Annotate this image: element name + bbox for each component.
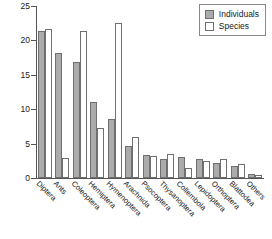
bar xyxy=(238,164,245,178)
bar xyxy=(132,137,139,178)
bar-group xyxy=(124,6,142,178)
bar xyxy=(150,156,157,178)
bar-group xyxy=(176,6,194,178)
legend-item-species: Species xyxy=(205,21,259,31)
y-tick-label-0: 0 xyxy=(10,173,30,183)
bar xyxy=(55,53,62,178)
bar xyxy=(220,159,227,178)
bar xyxy=(160,159,167,178)
bar xyxy=(80,31,87,178)
bar xyxy=(255,175,262,178)
y-tick-label-10: 10 xyxy=(10,104,30,114)
bar xyxy=(231,166,238,178)
bar xyxy=(143,155,150,178)
bar-group xyxy=(36,6,54,178)
bar xyxy=(45,29,52,178)
bar xyxy=(185,168,192,178)
bar-group xyxy=(141,6,159,178)
bar xyxy=(213,163,220,178)
legend-label-individuals: Individuals xyxy=(219,9,259,19)
bar xyxy=(90,102,97,178)
bar-group xyxy=(106,6,124,178)
bar xyxy=(167,154,174,178)
legend-swatch-species xyxy=(205,22,214,31)
bar-chart: Percentage 0510152025 DipteraAntsColeopt… xyxy=(0,0,272,239)
chart-legend: Individuals Species xyxy=(199,4,266,36)
bar xyxy=(178,157,185,178)
bar xyxy=(196,159,203,178)
bar xyxy=(73,62,80,178)
bar-group xyxy=(159,6,177,178)
legend-swatch-individuals xyxy=(205,10,214,19)
y-tick-label-5: 5 xyxy=(10,139,30,149)
y-axis-title-holder: Percentage xyxy=(2,0,14,178)
bar xyxy=(97,128,104,178)
y-tick-label-20: 20 xyxy=(10,35,30,45)
bar xyxy=(108,119,115,178)
bar xyxy=(248,174,255,178)
bar xyxy=(125,146,132,178)
bar xyxy=(62,158,69,178)
bar xyxy=(38,31,45,178)
legend-item-individuals: Individuals xyxy=(205,9,259,19)
y-tick-label-25: 25 xyxy=(10,1,30,11)
x-axis-labels: DipteraAntsColeopteraHemipteraHymenopter… xyxy=(36,179,264,239)
legend-label-species: Species xyxy=(219,21,249,31)
bar-group xyxy=(71,6,89,178)
bar xyxy=(203,161,210,178)
bar-group xyxy=(89,6,107,178)
y-tick-label-15: 15 xyxy=(10,70,30,80)
bar-group xyxy=(54,6,72,178)
bar xyxy=(115,23,122,178)
